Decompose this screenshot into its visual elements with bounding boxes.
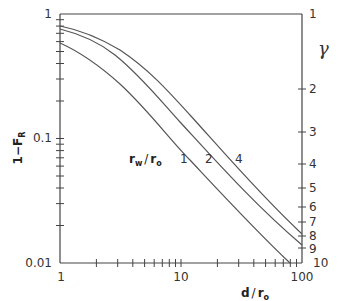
legend-label-4: 4 xyxy=(235,152,243,166)
gamma-tick-7: 7 xyxy=(309,215,317,229)
plot-frame xyxy=(60,14,302,263)
y-tick-0.1: 0.1 xyxy=(33,131,52,145)
y-tick-1: 1 xyxy=(44,7,52,21)
x-tick-10: 10 xyxy=(173,270,188,284)
curve-rw-ro-4 xyxy=(60,26,302,234)
gamma-tick-1: 1 xyxy=(309,7,317,21)
legend-label-1: 1 xyxy=(180,152,188,166)
chart: 1 0.1 0.01 1 10 100 1 2 3 4 5 6 7 8 9 10… xyxy=(0,0,340,301)
gamma-tick-4: 4 xyxy=(309,157,317,171)
gamma-tick-5: 5 xyxy=(309,181,317,195)
svg-text:1−FR: 1−FR xyxy=(11,132,27,165)
gamma-tick-6: 6 xyxy=(309,200,317,214)
curve-rw-ro-1 xyxy=(60,43,290,263)
gamma-tick-9: 9 xyxy=(309,242,317,256)
curve-rw-ro-2 xyxy=(60,29,302,245)
gamma-axis-label: γ xyxy=(318,38,329,59)
y-tick-0.01: 0.01 xyxy=(25,256,52,270)
x-tick-1: 1 xyxy=(57,270,65,284)
x-tick-100: 100 xyxy=(291,270,314,284)
x-axis-title: d/ro xyxy=(241,286,270,301)
gamma-tick-2: 2 xyxy=(309,82,317,96)
curves xyxy=(60,26,302,263)
gamma-tick-8: 8 xyxy=(309,229,317,243)
legend-title: rw/ro xyxy=(129,152,162,168)
gamma-tick-10: 10 xyxy=(313,256,328,270)
gamma-tick-3: 3 xyxy=(309,125,317,139)
legend-label-2: 2 xyxy=(205,152,213,166)
y-axis-title: 1−FR xyxy=(11,132,27,165)
